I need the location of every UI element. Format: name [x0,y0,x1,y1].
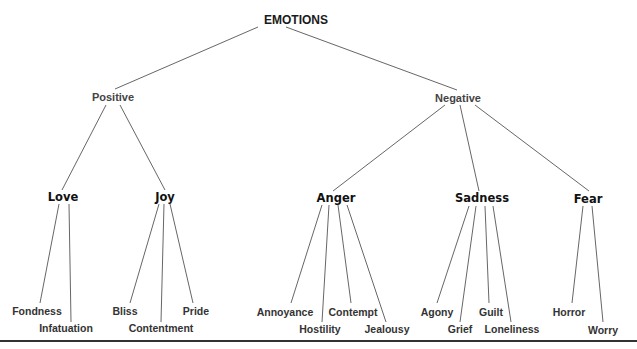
edge-joy-contentment [161,204,164,322]
edge-positive-love [62,105,106,190]
leaf-bliss: Bliss [112,305,137,317]
edge-sadness-guilt [485,206,489,303]
leaf-hostility: Hostility [299,323,340,335]
leaf-worry: Worry [588,324,618,336]
edge-fear-horror [572,206,583,303]
bottom-rule [0,340,637,342]
leaf-contempt: Contempt [329,306,378,318]
edge-emotions-positive [115,27,258,89]
node-fear: Fear [574,192,603,206]
leaf-contentment: Contentment [129,322,194,334]
node-negative: Negative [435,92,481,104]
edge-sadness-loneliness [493,206,511,322]
edge-anger-annoyance [291,205,322,303]
leaf-annoyance: Annoyance [257,306,314,318]
edge-negative-sadness [460,105,479,191]
node-love: Love [48,190,79,204]
leaf-jealousy: Jealousy [365,323,410,335]
node-emotions: EMOTIONS [264,13,328,27]
node-anger: Anger [317,191,356,205]
edge-fear-worry [592,206,603,322]
leaf-grief: Grief [448,323,473,335]
edge-negative-fear [475,105,589,191]
edge-negative-anger [333,105,445,191]
leaf-infatuation: Infatuation [39,322,93,334]
node-joy: Joy [155,190,175,204]
leaf-pride: Pride [183,305,209,317]
edge-positive-joy [120,105,165,190]
edge-anger-hostility [322,205,329,322]
node-sadness: Sadness [455,191,509,205]
leaf-agony: Agony [421,306,454,318]
edge-anger-jealousy [347,205,386,322]
node-positive: Positive [92,91,134,103]
edge-joy-bliss [130,204,159,303]
leaf-guilt: Guilt [479,306,503,318]
leaf-loneliness: Loneliness [485,323,540,335]
edge-emotions-negative [286,27,457,90]
edge-anger-contempt [338,205,351,303]
tree-edges [0,0,637,349]
edge-joy-pride [170,204,193,303]
edge-sadness-grief [460,206,476,322]
leaf-fondness: Fondness [12,305,62,317]
edge-love-infatuation [69,204,71,322]
edge-love-fondness [40,204,59,303]
leaf-horror: Horror [553,306,586,318]
